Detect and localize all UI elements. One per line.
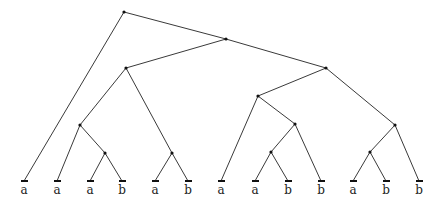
tree-edge (172, 153, 188, 181)
leaf-bar (252, 180, 259, 182)
tree-edge (80, 68, 126, 125)
internal-node (78, 123, 81, 126)
tree-edge (105, 153, 122, 181)
tree-edge (126, 39, 226, 68)
tree-edge (226, 39, 326, 68)
tree-edge (370, 152, 386, 181)
tree-edge (271, 124, 295, 152)
leaf-label: a (20, 183, 27, 197)
leaf-bar (185, 180, 192, 182)
leaf-label: a (86, 183, 93, 197)
tree-edges (24, 12, 419, 181)
leaf-bar (21, 180, 28, 182)
tree-edge (353, 152, 370, 181)
leaf-label: a (217, 183, 224, 197)
leaf-label: b (317, 183, 325, 197)
leaf-label: b (118, 183, 126, 197)
leaf-node: a (151, 180, 159, 197)
internal-node (124, 66, 127, 69)
internal-node (293, 122, 296, 125)
tree-edge (370, 125, 395, 152)
leaf-label: b (184, 183, 192, 197)
tree-edge (221, 96, 258, 181)
leaf-label: a (349, 183, 356, 197)
leaf-node: a (20, 180, 28, 197)
leaf-node: b (317, 180, 325, 197)
leaf-node: b (415, 180, 423, 197)
leaf-node: a (86, 180, 94, 197)
leaf-label: a (251, 183, 258, 197)
tree-edge (155, 153, 172, 181)
tree-leaves: aaababaabbabb (20, 180, 423, 197)
internal-node (224, 37, 227, 40)
tree-edge (57, 125, 80, 181)
internal-node (256, 94, 259, 97)
leaf-node: a (217, 180, 225, 197)
leaf-node: a (349, 180, 357, 197)
leaf-label: a (53, 183, 60, 197)
tree-diagram: aaababaabbabb (0, 0, 445, 205)
leaf-node: b (284, 180, 292, 197)
leaf-node: b (118, 180, 126, 197)
leaf-bar (87, 180, 94, 182)
leaf-node: a (251, 180, 259, 197)
leaf-label: a (151, 183, 158, 197)
leaf-bar (383, 180, 390, 182)
leaf-bar (285, 180, 292, 182)
tree-edge (124, 12, 226, 39)
internal-node (393, 123, 396, 126)
tree-edge (24, 12, 124, 181)
leaf-label: b (382, 183, 390, 197)
leaf-label: b (415, 183, 423, 197)
tree-edge (295, 124, 321, 181)
leaf-bar (119, 180, 126, 182)
leaf-node: a (53, 180, 61, 197)
internal-node (103, 151, 106, 154)
leaf-bar (152, 180, 159, 182)
tree-edge (271, 152, 288, 181)
tree-nodes (78, 10, 396, 154)
tree-edge (395, 125, 419, 181)
leaf-label: b (284, 183, 292, 197)
tree-edge (258, 68, 326, 96)
leaf-node: b (382, 180, 390, 197)
internal-node (368, 150, 371, 153)
tree-edge (126, 68, 172, 153)
tree-edge (255, 152, 271, 181)
internal-node (170, 151, 173, 154)
tree-edge (258, 96, 295, 124)
internal-node (269, 150, 272, 153)
leaf-bar (350, 180, 357, 182)
leaf-node: b (184, 180, 192, 197)
leaf-bar (218, 180, 225, 182)
leaf-bar (318, 180, 325, 182)
internal-node (324, 66, 327, 69)
tree-edge (326, 68, 395, 125)
tree-edge (90, 153, 105, 181)
root-node (122, 10, 125, 13)
tree-edge (80, 125, 105, 153)
leaf-bar (416, 180, 423, 182)
leaf-bar (54, 180, 61, 182)
